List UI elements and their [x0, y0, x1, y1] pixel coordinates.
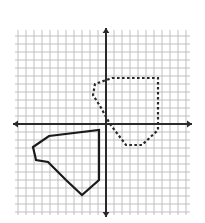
figure-canvas: Translation — [0, 0, 205, 223]
coordinate-plane — [0, 0, 205, 223]
coordinate-plane-svg — [0, 0, 205, 223]
